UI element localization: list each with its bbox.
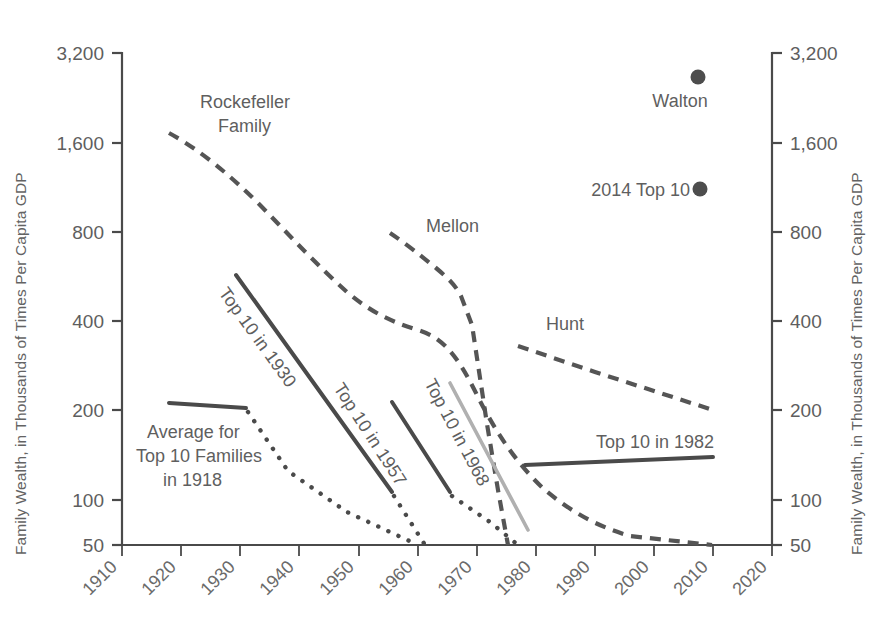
ytick-left-50: 50: [83, 535, 104, 556]
label-top10-1930: Top 10 in 1930: [215, 284, 301, 391]
xtick-1950: 1950: [315, 557, 357, 599]
label-top10-1982: Top 10 in 1982: [596, 432, 714, 452]
right-axis: [772, 53, 782, 545]
marker-2014-top10: [693, 182, 708, 197]
label-rockefeller-line1: Rockefeller: [200, 92, 290, 112]
series-avg-top10-1918-solid: [169, 403, 246, 408]
wealth-chart: 3,200 1,600 800 400 200 100 50 3,200 1,6…: [0, 0, 875, 644]
ytick-left-200: 200: [72, 400, 104, 421]
label-avg-line1: Average for: [147, 422, 240, 442]
left-axis: [112, 53, 122, 545]
label-avg-line2: Top 10 Families: [136, 446, 262, 466]
ytick-right-200: 200: [790, 400, 822, 421]
xtick-2010: 2010: [669, 557, 711, 599]
ytick-left-400: 400: [72, 311, 104, 332]
ytick-right-1600: 1,600: [790, 133, 838, 154]
ytick-right-3200: 3,200: [790, 43, 838, 64]
ytick-left-3200: 3,200: [56, 43, 104, 64]
label-top10-1957: Top 10 in 1957: [330, 379, 411, 489]
label-2014-top10: 2014 Top 10: [591, 180, 690, 200]
ytick-left-1600: 1,600: [56, 133, 104, 154]
series-hunt: [518, 346, 713, 410]
xtick-2000: 2000: [610, 557, 652, 599]
xtick-1930: 1930: [196, 557, 238, 599]
xtick-1960: 1960: [374, 557, 416, 599]
xtick-1910: 1910: [78, 557, 120, 599]
label-walton: Walton: [652, 91, 707, 111]
ytick-right-100: 100: [790, 490, 822, 511]
xtick-2020: 2020: [728, 557, 770, 599]
label-mellon: Mellon: [426, 216, 479, 236]
bottom-axis: [122, 545, 772, 556]
xtick-1940: 1940: [255, 557, 297, 599]
series-top10-1982: [525, 457, 713, 465]
xtick-1920: 1920: [137, 557, 179, 599]
marker-walton: [691, 70, 706, 85]
label-hunt: Hunt: [546, 314, 584, 334]
label-avg-line3: in 1918: [163, 470, 222, 490]
y-axis-title-right: Family Wealth, in Thousands of Times Per…: [848, 172, 865, 555]
ytick-right-50: 50: [790, 535, 811, 556]
series-mellon: [390, 233, 508, 545]
ytick-right-800: 800: [790, 222, 822, 243]
xtick-1990: 1990: [551, 557, 593, 599]
ytick-right-400: 400: [790, 311, 822, 332]
chart-canvas: 3,200 1,600 800 400 200 100 50 3,200 1,6…: [0, 0, 875, 644]
ytick-left-100: 100: [72, 490, 104, 511]
y-axis-title-left: Family Wealth, in Thousands of Times Per…: [12, 172, 29, 555]
xtick-1980: 1980: [492, 557, 534, 599]
ytick-left-800: 800: [72, 222, 104, 243]
label-rockefeller-line2: Family: [218, 116, 271, 136]
xtick-1970: 1970: [433, 557, 475, 599]
